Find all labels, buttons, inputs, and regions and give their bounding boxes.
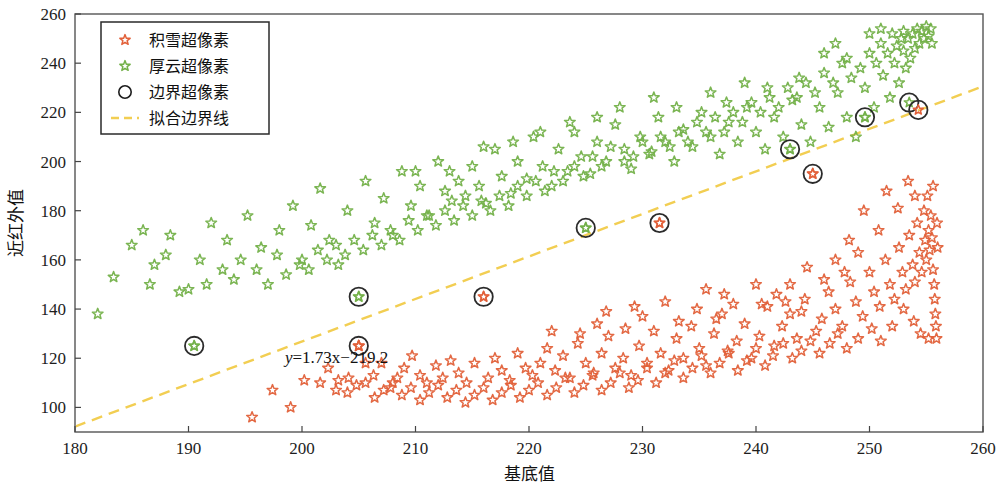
y-tick-label: 260 (41, 5, 67, 24)
equation-variable: y (283, 348, 293, 367)
equation-body: =1.73x−219.2 (293, 348, 389, 367)
y-tick-label: 120 (41, 349, 67, 368)
y-tick-label: 240 (41, 54, 67, 73)
fit-equation-label: y=1.73x−219.2 (283, 348, 388, 367)
chart-root: 1801902002102202302402502601001201401601… (0, 0, 998, 483)
legend-label: 厚云超像素 (149, 57, 229, 76)
x-tick-label: 180 (62, 439, 88, 458)
legend-label: 拟合边界线 (149, 109, 229, 128)
x-tick-label: 230 (630, 439, 656, 458)
x-tick-label: 250 (857, 439, 883, 458)
y-tick-label: 220 (41, 103, 67, 122)
legend-label: 积雪超像素 (149, 31, 229, 50)
legend: 积雪超像素厚云超像素边界超像素拟合边界线 (101, 22, 269, 134)
x-tick-label: 220 (516, 439, 542, 458)
x-tick-label: 200 (289, 439, 315, 458)
legend-label: 边界超像素 (149, 83, 229, 102)
x-axis-title: 基底值 (504, 464, 555, 483)
y-tick-label: 200 (41, 153, 67, 172)
y-tick-label: 140 (41, 300, 67, 319)
y-axis-title: 近红外值 (6, 189, 26, 257)
x-tick-label: 240 (743, 439, 769, 458)
y-tick-label: 180 (41, 202, 67, 221)
x-tick-label: 260 (970, 439, 996, 458)
x-tick-label: 190 (176, 439, 202, 458)
scatter-chart: 1801902002102202302402502601001201401601… (0, 0, 998, 483)
y-tick-label: 100 (41, 398, 67, 417)
y-tick-label: 160 (41, 251, 67, 270)
x-tick-label: 210 (403, 439, 429, 458)
